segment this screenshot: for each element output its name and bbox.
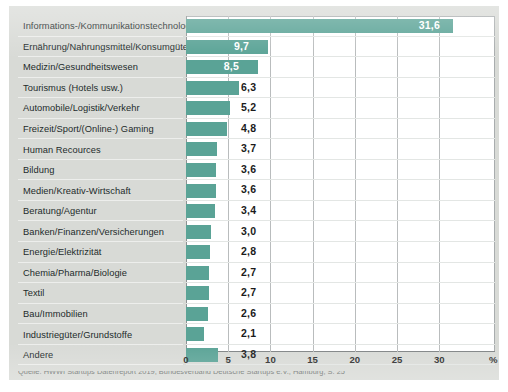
category-label: Andere bbox=[9, 350, 53, 360]
bar-value-label: 2,8 bbox=[241, 244, 256, 259]
category-label: Informations-/Kommunikationstechnologie bbox=[9, 21, 198, 31]
category-label: Energie/Elektrizität bbox=[9, 247, 102, 257]
bar-row: 8,5 bbox=[186, 57, 495, 78]
bar bbox=[186, 40, 268, 54]
bar bbox=[186, 307, 208, 321]
category-row: Industriegüter/Grundstoffe bbox=[9, 324, 183, 345]
bar-row: 2,6 bbox=[186, 304, 495, 325]
x-tick-label-20: 20 bbox=[350, 354, 361, 365]
bar-row: 3,6 bbox=[186, 160, 495, 181]
category-row: Textil bbox=[9, 283, 183, 304]
bar bbox=[186, 327, 204, 341]
x-tick-label-30: 30 bbox=[434, 354, 445, 365]
bar-value-label: 2,7 bbox=[241, 285, 256, 300]
category-row: Beratung/Agentur bbox=[9, 201, 183, 222]
bar bbox=[186, 163, 216, 177]
bar-value-label: 3,6 bbox=[241, 182, 256, 197]
plot-area: 31,69,78,56,35,24,83,73,63,63,43,02,82,7… bbox=[186, 16, 495, 352]
source-caption: Quelle: HWWI Startups Datenreport 2019, … bbox=[18, 371, 498, 383]
bar bbox=[186, 81, 239, 95]
bar bbox=[186, 245, 210, 259]
bar bbox=[186, 142, 217, 156]
chart-card: Informations-/KommunikationstechnologieE… bbox=[9, 6, 499, 380]
bar-value-label: 6,3 bbox=[241, 80, 256, 95]
category-label: Chemia/Pharma/Biologie bbox=[9, 268, 127, 278]
bar-value-label: 8,5 bbox=[224, 59, 239, 74]
category-label: Medizin/Gesundheitswesen bbox=[9, 62, 138, 72]
bar-row: 3,7 bbox=[186, 139, 495, 160]
bar-row: 3,6 bbox=[186, 180, 495, 201]
category-row: Medizin/Gesundheitswesen bbox=[9, 57, 183, 78]
category-row: Chemia/Pharma/Biologie bbox=[9, 263, 183, 284]
bar-row: 2,1 bbox=[186, 324, 495, 345]
bar-row: 5,2 bbox=[186, 98, 495, 119]
category-label: Automobile/Logistik/Verkehr bbox=[9, 103, 140, 113]
bar-value-label: 2,6 bbox=[241, 306, 256, 321]
x-axis: 051015202530 bbox=[186, 354, 495, 370]
category-row: Informations-/Kommunikationstechnologie bbox=[9, 16, 183, 37]
category-row: Human Recources bbox=[9, 139, 183, 160]
category-row: Tourismus (Hotels usw.) bbox=[9, 78, 183, 99]
bar-value-label: 2,7 bbox=[241, 265, 256, 280]
bar-value-label: 3,4 bbox=[241, 203, 256, 218]
category-label: Human Recources bbox=[9, 145, 101, 155]
category-row: Banken/Finanzen/Versicherungen bbox=[9, 222, 183, 243]
bar-value-label: 3,0 bbox=[241, 224, 256, 239]
bar bbox=[186, 101, 230, 115]
x-tick-label-5: 5 bbox=[226, 354, 231, 365]
x-tick-label-25: 25 bbox=[392, 354, 403, 365]
bar-row: 2,8 bbox=[186, 242, 495, 263]
bar-row: 2,7 bbox=[186, 283, 495, 304]
bar bbox=[186, 19, 453, 33]
bar-value-label: 2,1 bbox=[241, 326, 256, 341]
category-label: Banken/Finanzen/Versicherungen bbox=[9, 227, 164, 237]
bar-row: 9,7 bbox=[186, 37, 495, 58]
category-label: Medien/Kreativ-Wirtschaft bbox=[9, 186, 131, 196]
x-tick-label-10: 10 bbox=[265, 354, 276, 365]
x-axis-unit-label: % bbox=[489, 354, 498, 365]
category-label: Tourismus (Hotels usw.) bbox=[9, 83, 123, 93]
category-row: Andere bbox=[9, 345, 183, 366]
bar bbox=[186, 266, 209, 280]
bar bbox=[186, 60, 258, 74]
bar bbox=[186, 184, 216, 198]
category-row: Bildung bbox=[9, 160, 183, 181]
category-label: Ernährung/Nahrungsmittel/Konsumgüter bbox=[9, 42, 191, 52]
bar-chart: Informations-/KommunikationstechnologieE… bbox=[9, 6, 499, 380]
bar-row: 2,7 bbox=[186, 263, 495, 284]
bar-value-label: 3,6 bbox=[241, 162, 256, 177]
x-tick-label-15: 15 bbox=[307, 354, 318, 365]
bar bbox=[186, 122, 227, 136]
category-row: Energie/Elektrizität bbox=[9, 242, 183, 263]
category-label: Beratung/Agentur bbox=[9, 206, 97, 216]
bar-row: 31,6 bbox=[186, 16, 495, 37]
bar-value-label: 3,7 bbox=[241, 141, 256, 156]
source-caption-text: Quelle: HWWI Startups Datenreport 2019, … bbox=[18, 371, 498, 376]
x-tick-label-0: 0 bbox=[183, 354, 188, 365]
bar-row: 4,8 bbox=[186, 119, 495, 140]
bar-value-label: 4,8 bbox=[241, 121, 256, 136]
bar bbox=[186, 286, 209, 300]
category-label: Freizeit/Sport/(Online-) Gaming bbox=[9, 124, 154, 134]
category-row: Ernährung/Nahrungsmittel/Konsumgüter bbox=[9, 37, 183, 58]
bar bbox=[186, 225, 211, 239]
bar-value-label: 9,7 bbox=[234, 39, 249, 54]
category-label: Industriegüter/Grundstoffe bbox=[9, 330, 132, 340]
bar-row: 3,4 bbox=[186, 201, 495, 222]
category-row: Freizeit/Sport/(Online-) Gaming bbox=[9, 119, 183, 140]
bar-value-label: 5,2 bbox=[241, 100, 256, 115]
category-row: Medien/Kreativ-Wirtschaft bbox=[9, 180, 183, 201]
bar-row: 6,3 bbox=[186, 78, 495, 99]
category-row-separator bbox=[18, 364, 183, 365]
bar-row: 3,0 bbox=[186, 222, 495, 243]
category-label: Textil bbox=[9, 288, 44, 298]
category-label: Bau/Immobilien bbox=[9, 309, 88, 319]
category-row: Bau/Immobilien bbox=[9, 304, 183, 325]
bar-value-label: 31,6 bbox=[419, 18, 440, 33]
category-label: Bildung bbox=[9, 165, 54, 175]
bar bbox=[186, 204, 215, 218]
category-row: Automobile/Logistik/Verkehr bbox=[9, 98, 183, 119]
